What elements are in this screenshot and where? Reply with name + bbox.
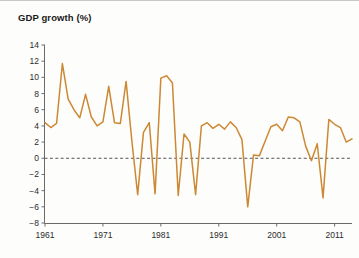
x-tick-label: 1961 bbox=[36, 230, 55, 240]
y-tick-label: 14 bbox=[30, 40, 40, 50]
x-tick-label: 1991 bbox=[209, 230, 228, 240]
x-tick-label: 1971 bbox=[93, 230, 112, 240]
x-tick-label: 2011 bbox=[325, 230, 344, 240]
y-axis-ticks: 14121086420−2−4−6−8 bbox=[29, 40, 45, 228]
gdp-growth-line-chart: 14121086420−2−4−6−8 19611971198119912001… bbox=[0, 0, 359, 258]
y-tick-label: −4 bbox=[29, 186, 39, 196]
y-tick-label: −8 bbox=[29, 218, 39, 228]
y-tick-label: 12 bbox=[30, 56, 40, 66]
y-tick-label: 0 bbox=[34, 153, 39, 163]
y-tick-label: −2 bbox=[29, 169, 39, 179]
y-tick-label: 2 bbox=[34, 137, 39, 147]
x-tick-label: 2001 bbox=[267, 230, 286, 240]
y-tick-label: 6 bbox=[34, 105, 39, 115]
chart-figure: GDP growth (%) 14121086420−2−4−6−8 19611… bbox=[0, 0, 359, 258]
y-tick-label: −6 bbox=[29, 202, 39, 212]
x-tick-label: 1981 bbox=[151, 230, 170, 240]
y-tick-label: 4 bbox=[34, 121, 39, 131]
y-tick-label: 10 bbox=[30, 72, 40, 82]
y-tick-label: 8 bbox=[34, 89, 39, 99]
gdp-growth-series-line bbox=[45, 64, 352, 207]
x-axis-ticks: 196119711981199120012011 bbox=[36, 223, 344, 240]
